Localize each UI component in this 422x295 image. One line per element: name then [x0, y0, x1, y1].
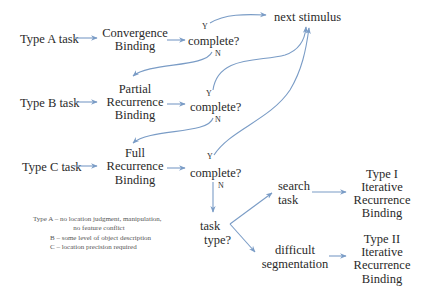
type2-line3: Recurrence: [354, 258, 411, 272]
legend-line-a2: no feature conflict: [73, 224, 124, 232]
arrow-task-type-to-search: [230, 193, 272, 224]
arrow-a-no-to-partial: [133, 52, 212, 76]
task-type-a: Type A task: [20, 32, 80, 46]
full-recurrence-line3: Binding: [115, 173, 156, 187]
decision-c-yes: Y: [207, 152, 213, 161]
task-type-line2: type?: [204, 233, 232, 247]
next-stimulus: next stimulus: [274, 10, 341, 24]
type2-line1: Type II: [364, 232, 400, 246]
full-recurrence-line2: Recurrence: [107, 159, 164, 173]
decision-c-no: N: [218, 181, 224, 190]
task-type-c: Type C task: [22, 160, 82, 174]
type1-line2: Iterative: [361, 180, 403, 194]
type1-line1: Type I: [366, 167, 398, 181]
decision-b-no: N: [215, 115, 221, 124]
task-type-b: Type B task: [20, 96, 80, 110]
decision-b-complete: complete?: [190, 100, 242, 114]
partial-recurrence-line2: Recurrence: [107, 95, 164, 109]
decision-a-yes: Y: [202, 22, 208, 31]
difficult-line2: segmentation: [262, 257, 329, 271]
legend-line-a: Type A – no location judgment, manipulat…: [33, 215, 162, 223]
decision-b-yes: Y: [206, 89, 212, 98]
convergence-binding-line2: Binding: [115, 39, 156, 53]
recurrence-binding-flow-diagram: Type A task Convergence Binding Y comple…: [0, 0, 422, 295]
difficult-line1: difficult: [275, 243, 316, 257]
type2-line4: Binding: [362, 272, 403, 286]
full-recurrence-line1: Full: [125, 146, 146, 160]
decision-c-complete: complete?: [190, 166, 242, 180]
partial-recurrence-line1: Partial: [119, 82, 152, 96]
type1-line3: Recurrence: [354, 193, 411, 207]
legend-line-c: C – location precision required: [50, 243, 137, 251]
search-task-line1: search: [278, 179, 311, 193]
type2-line2: Iterative: [361, 245, 403, 259]
task-type-line1: task: [200, 219, 221, 233]
convergence-binding-line1: Convergence: [102, 26, 168, 40]
search-task-line2: task: [278, 193, 299, 207]
arrow-task-type-to-difficult: [230, 224, 255, 252]
decision-a-complete: complete?: [188, 34, 240, 48]
partial-recurrence-line3: Binding: [115, 108, 156, 122]
legend-line-b: B – some level of object description: [50, 234, 152, 242]
decision-a-no: N: [215, 49, 221, 58]
type1-line4: Binding: [362, 206, 403, 220]
arrow-a-yes-to-next: [210, 15, 266, 23]
